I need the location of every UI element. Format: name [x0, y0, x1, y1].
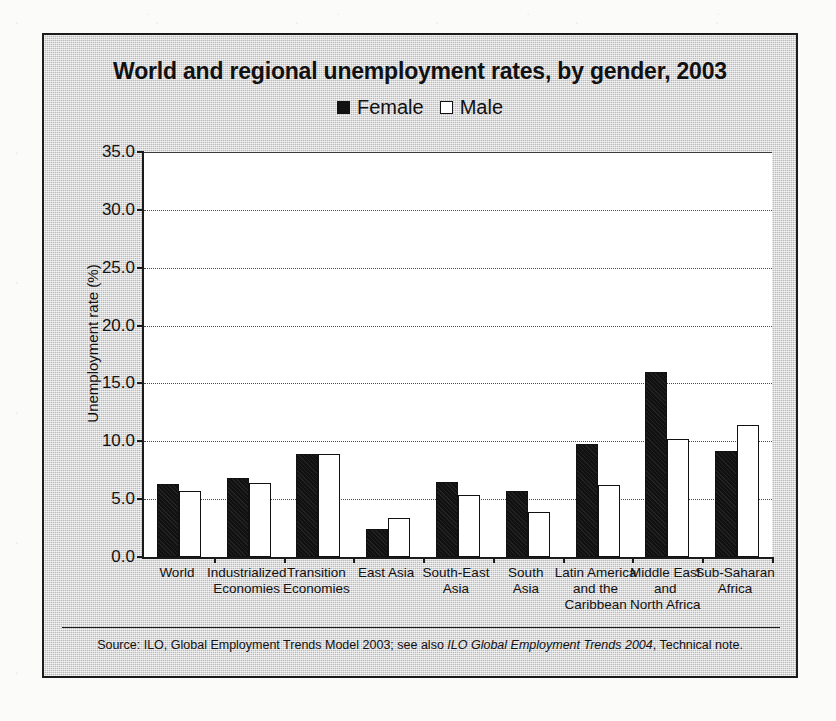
bar-female: [227, 478, 249, 557]
bar-male: [737, 425, 759, 557]
y-tick-label: 35.0: [102, 142, 135, 162]
bar-male: [388, 518, 410, 557]
x-tick-mark: [702, 557, 704, 563]
bar-female: [576, 444, 598, 557]
legend-label-female: Female: [357, 97, 424, 117]
x-tick-mark: [563, 557, 565, 563]
y-tick-mark: [137, 151, 144, 153]
y-tick-label: 10.0: [102, 431, 135, 451]
bar-male: [318, 454, 340, 557]
bar-female: [296, 454, 318, 557]
y-tick-mark: [137, 267, 144, 269]
x-tick-mark: [284, 557, 286, 563]
y-tick-mark: [137, 325, 144, 327]
bar-group: [296, 152, 340, 557]
x-category-label-line: Sub-Saharan: [692, 565, 778, 581]
y-tick-label: 25.0: [102, 258, 135, 278]
bar-female: [506, 491, 528, 557]
bar-female: [715, 451, 737, 557]
legend-entry-female: Female: [337, 97, 424, 117]
source-note-title: ILO Global Employment Trends 2004: [447, 638, 652, 652]
bar-female: [366, 529, 388, 557]
bar-group: [645, 152, 689, 557]
bars-layer: [144, 152, 772, 557]
legend-entry-male: Male: [440, 97, 503, 117]
bar-group: [436, 152, 480, 557]
bar-male: [458, 495, 480, 557]
source-note: Source: ILO, Global Employment Trends Mo…: [44, 638, 796, 652]
y-tick-mark: [137, 209, 144, 211]
bar-female: [645, 372, 667, 557]
y-tick-mark: [137, 498, 144, 500]
x-category-label-line: Africa: [692, 581, 778, 597]
legend-swatch-female-icon: [337, 101, 350, 114]
figure-frame: World and regional unemployment rates, b…: [42, 33, 798, 678]
x-tick-mark: [632, 557, 634, 563]
bar-group: [715, 152, 759, 557]
source-note-prefix: Source: ILO, Global Employment Trends Mo…: [97, 638, 447, 652]
x-axis-category-labels: WorldIndustrializedEconomiesTransitionEc…: [142, 565, 770, 645]
x-tick-mark: [353, 557, 355, 563]
plot-area: 0.05.010.015.020.025.030.035.0: [142, 152, 772, 559]
bar-male: [179, 491, 201, 557]
bar-group: [227, 152, 271, 557]
legend-swatch-male-icon: [440, 101, 453, 114]
y-tick-label: 5.0: [111, 489, 135, 509]
bar-group: [366, 152, 410, 557]
bar-female: [157, 484, 179, 557]
bar-male: [528, 512, 550, 557]
source-note-suffix: , Technical note.: [653, 638, 743, 652]
y-tick-mark: [137, 382, 144, 384]
bar-group: [576, 152, 620, 557]
y-tick-label: 15.0: [102, 373, 135, 393]
source-divider: [62, 627, 780, 628]
y-tick-mark: [137, 440, 144, 442]
y-tick-label: 0.0: [111, 547, 135, 567]
x-category-label: Sub-SaharanAfrica: [692, 565, 778, 597]
bar-group: [506, 152, 550, 557]
x-tick-mark: [772, 557, 774, 563]
x-category-label-line: Economies: [274, 581, 360, 597]
bar-female: [436, 482, 458, 557]
y-tick-mark: [137, 556, 144, 558]
x-tick-mark: [214, 557, 216, 563]
y-tick-label: 20.0: [102, 316, 135, 336]
chart-legend: Female Male: [44, 97, 796, 117]
bar-male: [249, 483, 271, 557]
legend-label-male: Male: [460, 97, 503, 117]
y-axis-title: Unemployment rate (%): [84, 249, 101, 439]
bar-male: [598, 485, 620, 557]
x-tick-mark: [493, 557, 495, 563]
chart-title: World and regional unemployment rates, b…: [44, 58, 796, 85]
x-category-label-line: North Africa: [622, 597, 708, 613]
x-tick-mark: [423, 557, 425, 563]
bar-group: [157, 152, 201, 557]
bar-male: [667, 439, 689, 557]
y-tick-label: 30.0: [102, 200, 135, 220]
